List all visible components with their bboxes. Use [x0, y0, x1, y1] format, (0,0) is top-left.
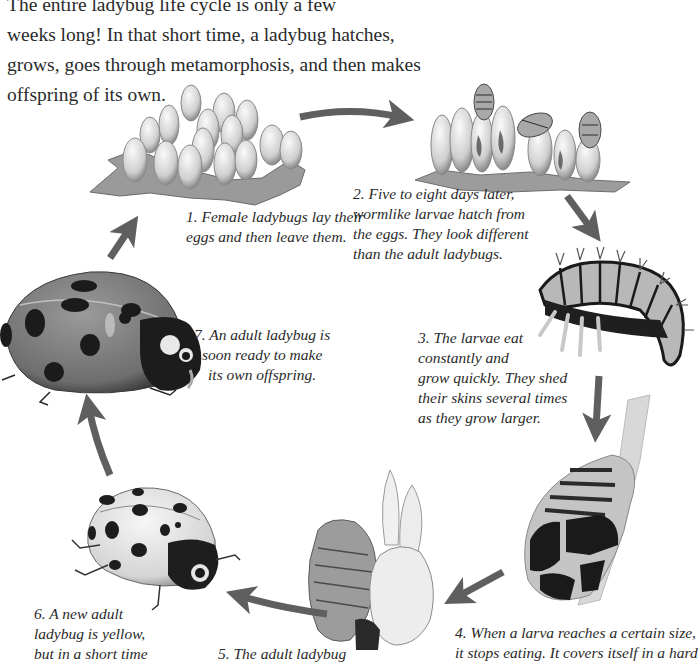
hatching-larvae-illustration: [415, 84, 630, 192]
caption-stage-1: 1. Female ladybugs lay their eggs and th…: [186, 207, 364, 247]
caption-line: their skins several times: [418, 388, 567, 408]
caption-line: than the adult ladybugs.: [353, 244, 528, 264]
caption-line: 6. A new adult: [34, 604, 148, 624]
caption-line: 1. Female ladybugs lay their: [186, 207, 364, 227]
caption-line: 3. The larvae eat: [418, 328, 567, 348]
caption-line: wormlike larvae hatch from: [353, 204, 528, 224]
caption-line: ladybug is yellow,: [34, 624, 148, 644]
eggs-on-leaf-illustration: [90, 85, 305, 205]
caption-stage-7: 7. An adult ladybug is soon ready to mak…: [194, 325, 330, 385]
arrow-3-to-4: [596, 376, 599, 428]
caption-line: grow quickly. They shed: [418, 368, 567, 388]
caption-line: but in a short time: [34, 644, 148, 664]
red-adult-ladybug-illustration: [0, 272, 201, 405]
caption-line: as they grow larger.: [418, 408, 567, 428]
arrow-4-to-5: [457, 572, 503, 597]
caption-line: constantly and: [418, 348, 567, 368]
caption-line: it stops eating. It covers itself in a h…: [455, 643, 698, 663]
caption-stage-5: 5. The adult ladybug: [218, 644, 346, 664]
arrow-2-to-3: [567, 196, 592, 230]
arrow-6-to-7: [89, 408, 110, 475]
caption-line: 2. Five to eight days later,: [353, 184, 528, 204]
caption-line: the eggs. They look different: [353, 224, 528, 244]
caption-stage-6: 6. A new adult ladybug is yellow, but in…: [34, 604, 148, 664]
caption-line: 5. The adult ladybug: [218, 644, 346, 664]
caption-stage-4: 4. When a larva reaches a certain size, …: [455, 623, 698, 663]
caption-line: its own offspring.: [194, 365, 330, 385]
caption-stage-2: 2. Five to eight days later, wormlike la…: [353, 184, 528, 264]
caption-line: 4. When a larva reaches a certain size,: [455, 623, 698, 643]
arrow-1-to-2: [300, 112, 400, 118]
caption-line: soon ready to make: [194, 345, 330, 365]
arrow-7-to-1: [110, 228, 130, 258]
caption-stage-3: 3. The larvae eat constantly and grow qu…: [418, 328, 567, 428]
yellow-ladybug-illustration: [72, 488, 240, 610]
emerging-adult-illustration: [309, 470, 434, 650]
caption-line: eggs and then leave them.: [186, 227, 364, 247]
caption-line: 7. An adult ladybug is: [194, 325, 330, 345]
